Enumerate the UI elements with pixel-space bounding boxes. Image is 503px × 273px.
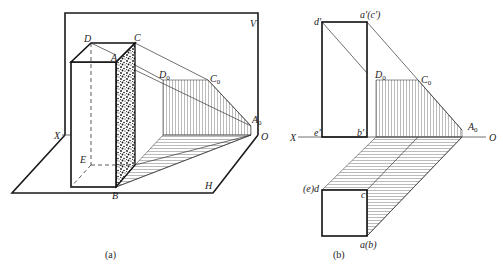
- caption-b: (b): [333, 249, 345, 261]
- label-C: C: [134, 32, 141, 43]
- figure-b: X O d' a'(c') e' b' D0 C0 A0 (e)d c a(b)…: [289, 9, 496, 261]
- figure-a: V H X O D A C E B D0 C0 A0 (a): [12, 13, 268, 261]
- front-view-rect: [322, 22, 367, 137]
- label-o-b: O: [489, 132, 496, 143]
- label-A0: A0: [251, 114, 262, 127]
- prism: [71, 43, 135, 187]
- label-A0-b: A0: [467, 121, 478, 134]
- label-D: D: [83, 33, 92, 44]
- shadow-on-v: [163, 80, 251, 135]
- shadow-front-view: [376, 80, 462, 137]
- label-A: A: [110, 52, 118, 63]
- label-d-prime: d': [314, 16, 322, 27]
- label-a-b: a(b): [360, 239, 377, 251]
- label-b-prime: b': [357, 127, 365, 138]
- label-E: E: [79, 154, 86, 165]
- label-c: c: [361, 189, 366, 200]
- label-x-b: X: [289, 132, 297, 143]
- projection-diagram: V H X O D A C E B D0 C0 A0 (a) X O d' a'…: [0, 0, 503, 273]
- label-a-prime-c-prime: a'(c'): [360, 9, 381, 21]
- label-v: V: [250, 18, 258, 29]
- label-x-a: X: [53, 130, 61, 141]
- label-o-a: O: [261, 131, 268, 142]
- label-h: H: [204, 180, 213, 191]
- label-B: B: [112, 190, 118, 201]
- caption-a: (a): [105, 249, 116, 261]
- label-e-prime: e': [314, 127, 321, 138]
- label-e-d: (e)d: [303, 183, 320, 195]
